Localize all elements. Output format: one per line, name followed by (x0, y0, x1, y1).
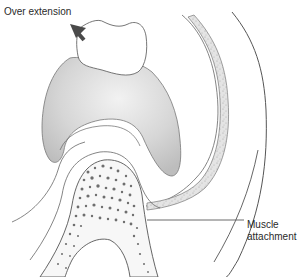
label-muscle-line2: attachment (247, 231, 296, 243)
label-muscle-attachment: Muscle attachment (247, 219, 296, 243)
label-muscle-line1: Muscle (247, 219, 296, 231)
diagram-canvas: Over extension Muscle attachment (0, 0, 304, 277)
label-over-extension: Over extension (4, 6, 71, 18)
